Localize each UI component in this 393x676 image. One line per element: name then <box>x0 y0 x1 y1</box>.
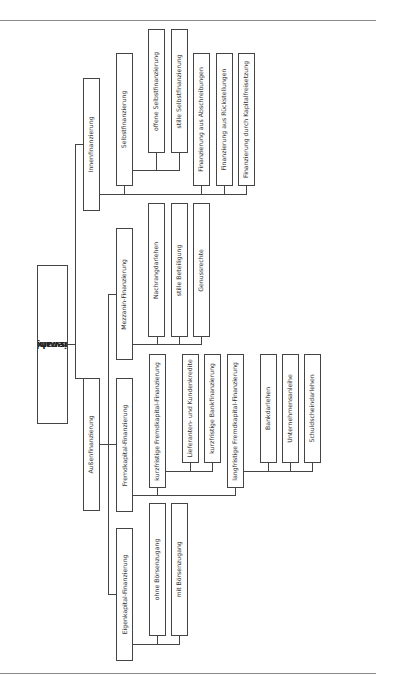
connector <box>75 378 83 379</box>
connector <box>179 635 180 644</box>
node-nachrangdarlehen: Nachrangdarlehen <box>148 203 165 337</box>
node-schuldscheindarlehen: Schuldscheindarlehen <box>304 354 321 463</box>
node-fremdkapital: Fremdkapital-Finanzierung <box>116 378 133 512</box>
connector <box>132 644 180 645</box>
label: Unternehmensanleihe <box>287 374 294 442</box>
connector <box>156 152 157 170</box>
node-selbstfinanzierung: Selbstfinanzierung <box>116 53 133 186</box>
label: Finanzierung aus Abschreibungen <box>198 67 205 172</box>
bottom-rule <box>0 673 376 674</box>
connector <box>108 594 116 595</box>
connector <box>246 186 247 194</box>
connector <box>212 462 213 471</box>
node-aussenfinanzierung: Außenfinanzierung <box>83 378 100 511</box>
connector <box>235 487 236 495</box>
connector <box>165 471 213 472</box>
connector <box>157 487 158 495</box>
connector <box>75 144 83 145</box>
node-offene-selbstfinanzierung: offene Selbstfinanzierung <box>148 29 165 153</box>
label: Nachrangdarlehen <box>153 241 160 298</box>
label: mit Börsenzugang <box>176 541 183 597</box>
node-fin-kapitalfreisetzung: Finanzierung durch Kapitalfreisetzung <box>238 53 255 186</box>
connector <box>157 336 158 344</box>
connector <box>108 444 116 445</box>
connector <box>124 186 125 194</box>
node-fin-rueckstellungen: Finanzierung aus Rückstellungen <box>216 53 233 186</box>
connector <box>99 444 108 445</box>
label: ohne Börsenzugang <box>154 539 161 601</box>
label: Finanzierung durch Kapitalfreisetzung <box>243 61 250 178</box>
node-kurzfristige-fk: kurzfristige Fremdkapital-Finanzierung <box>149 354 166 488</box>
label: Innenfinanzierung <box>88 116 95 172</box>
node-stille-beteiligung: stille Beteiligung <box>171 203 188 337</box>
label: Genussrechte <box>198 249 205 292</box>
connector <box>132 344 202 345</box>
label: stille Selbstfinanzierung <box>176 54 183 128</box>
label: Schuldscheindarlehen <box>309 374 316 442</box>
connector <box>132 495 236 496</box>
label: Fremdkapital-Finanzierung <box>121 404 128 486</box>
node-bankdarlehen: Bankdarlehen <box>260 354 277 463</box>
connector <box>190 462 191 471</box>
top-rule <box>0 20 376 21</box>
connector <box>268 462 269 471</box>
node-fin-abschreibungen: Finanzierung aus Abschreibungen <box>193 53 210 186</box>
node-lieferantenkredite: Lieferanten- und Kundenkredite <box>182 354 199 463</box>
node-innenfinanzierung: Innenfinanzierung <box>83 78 100 211</box>
connector <box>201 186 202 194</box>
connector <box>157 635 158 644</box>
root-node: Finanzierungsformen(Auswahl) <box>37 265 68 424</box>
label: langfristige Fremdkapital-Finanzierung <box>232 362 239 481</box>
node-stille-selbstfinanzierung: stille Selbstfinanzierung <box>171 29 188 153</box>
label: Selbstfinanzierung <box>121 91 128 149</box>
connector <box>290 462 291 471</box>
connector <box>179 336 180 344</box>
node-langfristige-fk: langfristige Fremdkapital-Finanzierung <box>227 354 244 488</box>
connector <box>67 344 75 345</box>
node-ohne-boersenzugang: ohne Börsenzugang <box>149 503 166 636</box>
label: Eigenkapital-Finanzierung <box>121 555 128 635</box>
connector <box>132 170 180 171</box>
node-mit-boersenzugang: mit Börsenzugang <box>171 503 188 636</box>
label: kurzfristige Fremdkapital-Finanzierung <box>154 362 161 481</box>
node-mezzanin: Mezzanin-Finanzierung <box>116 228 133 360</box>
label: Außenfinanzierung <box>88 415 95 473</box>
label: stille Beteiligung <box>176 244 183 296</box>
node-kurzfristige-bankfinanzierung: kurzfristige Bankfinanzierung <box>204 354 221 463</box>
connector <box>75 144 76 378</box>
label: Bankdarlehen <box>265 387 272 430</box>
connector <box>312 462 313 471</box>
label: offene Selbstfinanzierung <box>153 51 160 130</box>
root-subtitle: (Auswahl) <box>37 339 68 350</box>
connector <box>179 152 180 170</box>
node-genussrechte: Genussrechte <box>193 203 210 337</box>
node-eigenkapital: Eigenkapital-Finanzierung <box>116 528 133 661</box>
label: Mezzanin-Finanzierung <box>121 259 128 330</box>
connector <box>224 186 225 194</box>
label: Finanzierung aus Rückstellungen <box>221 69 228 171</box>
connector <box>201 336 202 344</box>
label: kurzfristige Bankfinanzierung <box>209 363 216 454</box>
node-unternehmensanleihe: Unternehmensanleihe <box>282 354 299 463</box>
connector <box>108 294 116 295</box>
connector <box>243 471 313 472</box>
label: Lieferanten- und Kundenkredite <box>187 359 194 457</box>
connector <box>99 194 247 195</box>
